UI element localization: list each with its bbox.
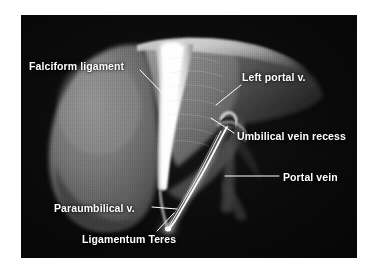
label-paraumbilical-vein: Paraumbilical v. (54, 203, 135, 214)
figure-page: Falciform ligament Left portal v. Umbili… (0, 0, 377, 275)
falciform-inferior-continuation (160, 191, 167, 227)
label-umbilical-vein-recess: Umbilical vein recess (237, 131, 346, 142)
label-left-portal-vein: Left portal v. (242, 72, 306, 83)
label-portal-vein: Portal vein (283, 172, 338, 183)
label-ligamentum-teres: Ligamentum Teres (82, 234, 176, 245)
left-lobe-highlight (57, 59, 141, 155)
label-falciform-ligament: Falciform ligament (29, 61, 124, 72)
